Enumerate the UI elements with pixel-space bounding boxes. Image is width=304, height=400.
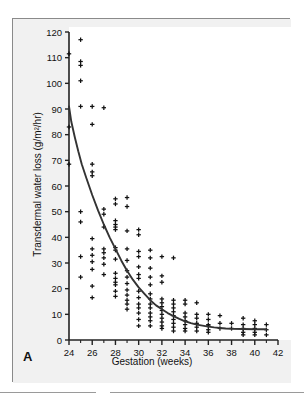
adjacent-panel-edge-right <box>110 392 304 393</box>
y-tick-label: 20 <box>51 283 62 294</box>
scatter-plot-canvas: 0102030405060708090100110120 24262830323… <box>13 19 291 383</box>
y-tick-label: 0 <box>57 335 62 346</box>
chart-panel-a: 0102030405060708090100110120 24262830323… <box>12 18 290 382</box>
y-axis-title-text: Transdermal water loss (g/m²/hr) <box>32 112 43 257</box>
adjacent-panel-edge-left <box>0 392 96 393</box>
x-axis-title-text: Gestation (weeks) <box>112 356 193 367</box>
figure-root: 0102030405060708090100110120 24262830323… <box>0 0 304 400</box>
y-tick-label: 120 <box>46 27 62 38</box>
y-tick-label: 100 <box>46 78 62 89</box>
y-tick-label: 60 <box>51 181 62 192</box>
y-tick-label: 110 <box>47 52 62 63</box>
y-tick-label: 70 <box>51 155 62 166</box>
y-tick-label: 30 <box>51 258 62 269</box>
y-tick-label: 90 <box>51 104 62 115</box>
y-tick-label: 50 <box>51 206 62 217</box>
panel-label: A <box>23 349 33 364</box>
y-tick-label: 80 <box>51 129 62 140</box>
x-axis-title: Gestation (weeks) <box>13 356 291 367</box>
y-axis-title: Transdermal water loss (g/m²/hr) <box>32 65 43 305</box>
y-tick-label: 10 <box>51 309 62 320</box>
plot-area-background <box>69 27 291 340</box>
y-tick-label: 40 <box>51 232 62 243</box>
